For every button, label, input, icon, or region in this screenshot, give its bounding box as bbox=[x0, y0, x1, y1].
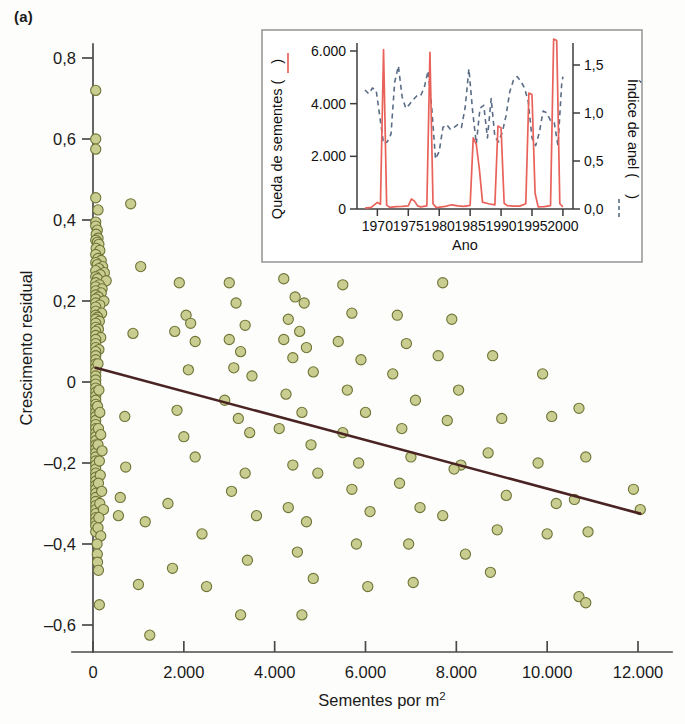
scatter-point bbox=[94, 600, 104, 610]
scatter-point bbox=[229, 363, 239, 373]
scatter-point bbox=[492, 525, 502, 535]
scatter-point bbox=[415, 502, 425, 512]
scatter-point bbox=[121, 462, 131, 472]
scatter-point bbox=[438, 278, 448, 288]
scatter-point bbox=[279, 274, 289, 284]
inset-left-tick-label: 4.000 bbox=[311, 96, 346, 112]
y-tick-label: –0,6 bbox=[44, 616, 76, 634]
inset-left-axis-title-close: ) bbox=[269, 59, 285, 64]
scatter-point bbox=[308, 367, 318, 377]
scatter-point bbox=[97, 446, 107, 456]
inset-x-tick-label: 1985 bbox=[455, 218, 486, 234]
inset-x-tick-label: 1980 bbox=[424, 218, 455, 234]
scatter-point bbox=[233, 413, 243, 423]
scatter-point bbox=[190, 336, 200, 346]
x-tick-label: 8.000 bbox=[436, 663, 477, 681]
scatter-point bbox=[485, 567, 495, 577]
scatter-point bbox=[96, 430, 106, 440]
scatter-point bbox=[140, 517, 150, 527]
scatter-point bbox=[583, 527, 593, 537]
x-tick-label: 2.000 bbox=[163, 663, 204, 681]
scatter-point bbox=[226, 486, 236, 496]
scatter-point bbox=[551, 498, 561, 508]
scatter-point bbox=[442, 415, 452, 425]
y-tick-label: 0,6 bbox=[53, 130, 76, 148]
x-tick-group: 02.0004.0006.0008.00010.00012.000 bbox=[88, 641, 663, 681]
scatter-point bbox=[174, 278, 184, 288]
inset-right-tick-label: 0,0 bbox=[584, 201, 604, 217]
scatter-point bbox=[93, 565, 103, 575]
scatter-point bbox=[190, 452, 200, 462]
scatter-point bbox=[313, 468, 323, 478]
x-tick-label: 10.000 bbox=[522, 663, 572, 681]
scatter-point bbox=[120, 411, 130, 421]
scatter-point bbox=[167, 563, 177, 573]
scatter-point bbox=[347, 484, 357, 494]
scatter-point bbox=[454, 385, 464, 395]
scatter-point bbox=[224, 334, 234, 344]
scatter-point bbox=[224, 278, 234, 288]
scatter-point bbox=[236, 610, 246, 620]
scatter-point bbox=[354, 458, 364, 468]
trend-line bbox=[96, 368, 641, 514]
scatter-point bbox=[488, 351, 498, 361]
scatter-point bbox=[397, 423, 407, 433]
x-axis-title: Sementes por m2 bbox=[318, 690, 445, 709]
scatter-point bbox=[438, 511, 448, 521]
scatter-point bbox=[338, 280, 348, 290]
inset-x-tick-label: 1990 bbox=[485, 218, 516, 234]
scatter-point bbox=[360, 407, 370, 417]
scatter-point bbox=[288, 353, 298, 363]
scatter-point bbox=[274, 423, 284, 433]
scatter-point bbox=[401, 338, 411, 348]
inset-left-axis-title: Queda de sementes () bbox=[269, 59, 285, 219]
inset-right-axis-title-text: Índice de anel ( bbox=[625, 79, 641, 178]
y-tick-label: 0,8 bbox=[53, 49, 76, 67]
scatter-point bbox=[297, 407, 307, 417]
scatter-point bbox=[581, 452, 591, 462]
x-axis-title-superscript: 2 bbox=[439, 690, 445, 702]
scatter-point bbox=[306, 440, 316, 450]
scatter-point bbox=[93, 205, 103, 215]
inset-right-tick-label: 1,5 bbox=[584, 57, 604, 73]
scatter-point bbox=[408, 577, 418, 587]
scatter-point bbox=[433, 351, 443, 361]
scatter-point bbox=[201, 581, 211, 591]
scatter-point bbox=[628, 484, 638, 494]
scatter-point bbox=[136, 261, 146, 271]
scatter-point bbox=[251, 511, 261, 521]
scatter-point bbox=[126, 199, 136, 209]
scatter-point bbox=[574, 403, 584, 413]
scatter-point bbox=[392, 310, 402, 320]
scatter-point bbox=[301, 517, 311, 527]
scatter-point bbox=[163, 498, 173, 508]
scatter-point bbox=[388, 369, 398, 379]
scatter-point bbox=[347, 308, 357, 318]
scatter-point bbox=[394, 478, 404, 488]
scatter-point bbox=[97, 486, 107, 496]
scatter-point bbox=[333, 336, 343, 346]
scatter-point bbox=[410, 395, 420, 405]
scatter-point bbox=[297, 610, 307, 620]
scatter-point bbox=[240, 320, 250, 330]
y-tick-label: –0,2 bbox=[44, 454, 76, 472]
scatter-point bbox=[281, 389, 291, 399]
scatter-point bbox=[460, 549, 470, 559]
scatter-point bbox=[242, 555, 252, 565]
scatter-point bbox=[179, 432, 189, 442]
scatter-point bbox=[113, 511, 123, 521]
scatter-point bbox=[183, 365, 193, 375]
scatter-point bbox=[236, 347, 246, 357]
inset-x-tick-label: 2000 bbox=[547, 218, 578, 234]
scatter-point bbox=[288, 460, 298, 470]
scatter-point bbox=[404, 539, 414, 549]
scatter-point bbox=[91, 85, 101, 95]
scatter-point bbox=[283, 502, 293, 512]
scatter-point bbox=[91, 134, 101, 144]
x-axis-title-text: Sementes por m bbox=[318, 691, 439, 709]
inset-x-tick-label: 1995 bbox=[516, 218, 547, 234]
scatter-point bbox=[542, 529, 552, 539]
inset-chart: 02.0004.0006.000 0,00,51,01,5 1970197519… bbox=[261, 29, 643, 263]
scatter-point bbox=[483, 448, 493, 458]
inset-x-axis-title: Ano bbox=[452, 237, 478, 253]
